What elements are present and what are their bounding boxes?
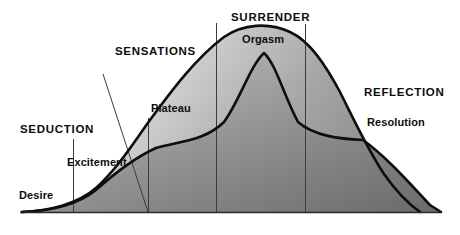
phase-label-seduction: SEDUCTION <box>20 124 94 136</box>
phase-label-surrender: SURRENDER <box>231 12 310 24</box>
stage-label-plateau: Plateau <box>151 103 191 114</box>
phase-label-sensations: SENSATIONS <box>115 46 196 58</box>
stage-label-desire: Desire <box>19 190 53 201</box>
stage-label-resolution: Resolution <box>367 117 425 128</box>
stage-label-orgasm: Orgasm <box>242 34 284 45</box>
stage-label-excitement: Excitement <box>67 157 127 168</box>
sexual-response-cycle-figure: SEDUCTION SENSATIONS SURRENDER REFLECTIO… <box>0 0 460 235</box>
phase-label-reflection: REFLECTION <box>364 87 444 99</box>
